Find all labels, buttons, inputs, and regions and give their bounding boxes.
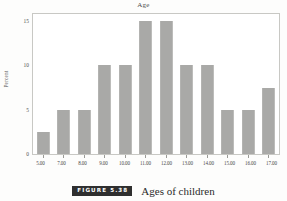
bar-slot [197, 14, 218, 154]
bar-slot [177, 14, 198, 154]
bar-slot [136, 14, 157, 154]
bar-slot [218, 14, 239, 154]
x-tick-label: 13.00 [177, 160, 198, 170]
bar [139, 21, 152, 154]
x-tick-label: 12.00 [156, 160, 177, 170]
x-tick-mark [104, 155, 105, 158]
bar-slot [74, 14, 95, 154]
x-tick-label: 5.00 [30, 160, 51, 170]
x-tick-mark [125, 155, 126, 158]
figure-caption-text: Ages of children [141, 185, 214, 197]
x-tick-slot [218, 155, 239, 159]
figure-number-badge: FIGURE 5.38 [72, 186, 132, 197]
x-tick-label: 15.00 [219, 160, 240, 170]
x-tick-slot [95, 155, 116, 159]
x-tick-mark [43, 155, 44, 158]
bar [262, 88, 275, 154]
figure-caption-row: FIGURE 5.38 Ages of children [0, 181, 287, 201]
bar-series [33, 14, 279, 154]
x-tick-slot [259, 155, 280, 159]
x-tick-mark [186, 155, 187, 158]
x-tick-label: 14.00 [198, 160, 219, 170]
x-tick-slot [238, 155, 259, 159]
figure-container: Age Percent 051015 5.007.008.009.0010.00… [0, 0, 287, 201]
x-tick-slot [177, 155, 198, 159]
bar [201, 65, 214, 154]
x-tick-mark [227, 155, 228, 158]
x-tick-mark [207, 155, 208, 158]
x-tick-mark [145, 155, 146, 158]
bar-slot [238, 14, 259, 154]
bar [57, 110, 70, 154]
bar [242, 110, 255, 154]
bar [221, 110, 234, 154]
bar [98, 65, 111, 154]
x-tick-slot [115, 155, 136, 159]
bar-slot [33, 14, 54, 154]
x-tick-label: 8.00 [72, 160, 93, 170]
x-tick-label: 17.00 [261, 160, 282, 170]
chart-area: Age Percent 051015 5.007.008.009.0010.00… [0, 0, 287, 178]
x-tick-slot [197, 155, 218, 159]
x-tick-slot [74, 155, 95, 159]
x-axis-tick-marks [33, 155, 279, 159]
x-tick-label: 11.00 [135, 160, 156, 170]
bar-slot [259, 14, 280, 154]
x-tick-slot [136, 155, 157, 159]
x-tick-label: 16.00 [240, 160, 261, 170]
bar-slot [156, 14, 177, 154]
bar-slot [115, 14, 136, 154]
x-tick-mark [166, 155, 167, 158]
x-tick-mark [84, 155, 85, 158]
x-tick-slot [54, 155, 75, 159]
x-tick-mark [63, 155, 64, 158]
bar [37, 132, 50, 154]
x-tick-label: 7.00 [51, 160, 72, 170]
bar [180, 65, 193, 154]
bar [78, 110, 91, 154]
x-tick-mark [268, 155, 269, 158]
bar-slot [95, 14, 116, 154]
bar [160, 21, 173, 154]
x-tick-slot [33, 155, 54, 159]
x-tick-label: 9.00 [93, 160, 114, 170]
x-tick-mark [248, 155, 249, 158]
x-tick-label: 10.00 [114, 160, 135, 170]
bar-slot [54, 14, 75, 154]
x-axis-tick-labels: 5.007.008.009.0010.0011.0012.0013.0014.0… [30, 160, 282, 170]
bar [119, 65, 132, 154]
x-tick-slot [156, 155, 177, 159]
